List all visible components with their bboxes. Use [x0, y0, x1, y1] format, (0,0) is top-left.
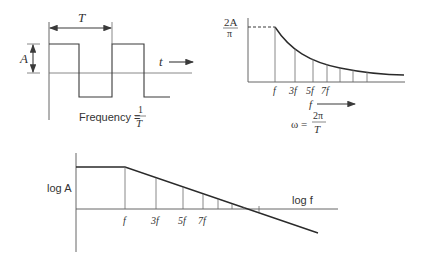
log-x-label: log f — [292, 194, 314, 206]
log-y-label: log A — [47, 182, 72, 194]
omega-label: ω = — [291, 118, 307, 130]
omega-numerator: 2π — [313, 110, 323, 121]
spectrum-tick-7f: 7f — [321, 85, 330, 96]
spectrum-tick-f: f — [273, 85, 277, 96]
square-wave-panel: T A t Frequency = 1 T — [19, 10, 193, 129]
amplitude-label: A — [19, 51, 28, 66]
spectrum-y-label-numerator: 2A — [224, 16, 238, 28]
time-label: t — [159, 54, 163, 69]
spectrum-tick-5f: 5f — [306, 85, 315, 96]
spectrum-harmonic-lines — [275, 27, 367, 82]
log-spectrum-panel: log A log f f 3f 5f 7f — [47, 153, 338, 252]
omega-denominator: T — [314, 123, 321, 135]
linear-spectrum-panel: 2A π f 3f 5f 7f f ω = 2π T — [223, 16, 405, 135]
log-envelope-line — [76, 167, 318, 233]
frequency-numerator: 1 — [138, 104, 143, 115]
square-wave-signal — [49, 44, 170, 97]
log-tick-f: f — [123, 215, 127, 226]
spectrum-envelope-curve — [275, 27, 404, 75]
log-tick-7f: 7f — [198, 215, 207, 226]
frequency-denominator: T — [136, 117, 143, 129]
log-tick-5f: 5f — [178, 215, 187, 226]
spectrum-y-label-denominator: π — [227, 28, 232, 39]
square-wave-spectrum-diagram: T A t Frequency = 1 T 2A π — [0, 0, 432, 258]
spectrum-tick-3f: 3f — [288, 85, 298, 96]
frequency-label: Frequency = — [79, 111, 140, 123]
log-tick-3f: 3f — [150, 215, 160, 226]
spectrum-x-label: f — [309, 98, 314, 110]
period-label: T — [78, 10, 86, 25]
